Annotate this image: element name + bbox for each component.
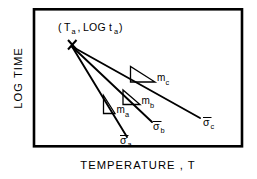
log-time-vs-temperature-chart: LOG TIME TEMPERATURE , T ( T a , LOG t a…	[0, 0, 257, 179]
slope-label-b-sub: b	[150, 101, 154, 110]
origin-comma: ,	[78, 21, 81, 33]
sigma-c-subscript: c	[211, 122, 215, 131]
origin-open-paren: (	[58, 21, 62, 33]
slope-label-b-m: m	[142, 95, 150, 106]
slope-label-a-m: m	[117, 104, 125, 115]
slope-label-c-sub: c	[166, 78, 170, 87]
y-axis-title-group: LOG TIME	[12, 47, 24, 109]
origin-t-symbol: T	[64, 21, 71, 33]
origin-close-paren: )	[119, 21, 123, 33]
slope-label-c-m: m	[157, 72, 165, 83]
origin-log-t: LOG t	[83, 21, 112, 33]
sigma-b-subscript: b	[161, 126, 165, 135]
figure-container: LOG TIME TEMPERATURE , T ( T a , LOG t a…	[0, 0, 257, 179]
x-axis-title: TEMPERATURE , T	[80, 159, 195, 171]
y-axis-title: LOG TIME	[12, 47, 24, 109]
